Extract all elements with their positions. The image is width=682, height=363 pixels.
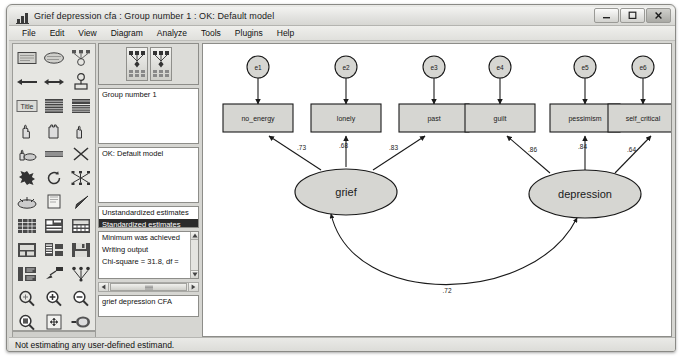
duplicate-objects-icon[interactable] <box>14 142 41 166</box>
draw-path-icon[interactable] <box>14 70 41 94</box>
save-current-diagram-icon[interactable] <box>67 238 94 262</box>
estimates-standardized-item[interactable]: Standardized estimates <box>99 219 198 228</box>
draw-latent-with-indicators-icon[interactable] <box>67 46 94 70</box>
error-label-e4: e4 <box>496 64 504 71</box>
move-parameter-values-icon[interactable] <box>14 190 41 214</box>
menu-diagram[interactable]: Diagram <box>104 26 150 41</box>
observed-variable-self_critical[interactable]: self_critical <box>608 104 671 132</box>
select-data-file-icon[interactable] <box>14 214 41 238</box>
error-term-e5[interactable]: e5 <box>574 56 596 104</box>
groups-panel[interactable]: Group number 1 <box>98 88 199 144</box>
path-depression-to-guilt[interactable] <box>507 136 550 173</box>
status-message: Not estimating any user-defined estimand… <box>9 340 174 350</box>
erase-objects-icon[interactable] <box>67 142 94 166</box>
drag-properties-icon[interactable] <box>41 262 68 286</box>
workspace: Title <box>9 41 675 337</box>
error-label-e5: e5 <box>581 64 589 71</box>
reflect-indicators-icon[interactable] <box>67 166 94 190</box>
move-objects-icon[interactable] <box>41 142 68 166</box>
menu-view[interactable]: View <box>71 26 103 41</box>
scroll-up-icon[interactable] <box>191 232 198 240</box>
zoom-out-icon[interactable] <box>67 286 94 310</box>
draw-unobserved-variable-icon[interactable] <box>41 46 68 70</box>
observed-variable-lonely[interactable]: lonely <box>311 104 381 132</box>
path-grief-to-no_energy[interactable] <box>269 136 321 170</box>
loading-label-depression-self_critical: .64 <box>627 146 636 153</box>
path-grief-to-past[interactable] <box>373 136 425 170</box>
observed-label-no_energy: no_energy <box>241 115 275 123</box>
menu-file[interactable]: File <box>15 26 43 41</box>
messages-vertical-scrollbar[interactable] <box>190 232 198 278</box>
view-text-output-icon[interactable] <box>41 238 68 262</box>
error-term-e2[interactable]: e2 <box>335 56 357 104</box>
error-term-e3[interactable]: e3 <box>423 56 445 104</box>
menu-help[interactable]: Help <box>270 26 301 41</box>
menu-tools[interactable]: Tools <box>194 26 228 41</box>
view-input-path-diagram-button[interactable] <box>126 47 148 81</box>
error-term-e4[interactable]: e4 <box>489 56 511 104</box>
path-depression-to-self_critical[interactable] <box>615 136 651 173</box>
observed-variable-past[interactable]: past <box>399 104 469 132</box>
scroll-left-icon[interactable] <box>99 283 109 291</box>
observed-label-self_critical: self_critical <box>626 115 661 123</box>
analysis-properties-icon[interactable] <box>41 214 68 238</box>
messages-horizontal-scrollbar[interactable] <box>98 282 199 292</box>
list-variables-in-dataset-icon[interactable] <box>67 94 94 118</box>
object-properties-icon[interactable] <box>14 262 41 286</box>
touch-up-variable-icon[interactable] <box>67 190 94 214</box>
estimates-unstandardized-item[interactable]: Unstandardized estimates <box>99 207 198 219</box>
view-output-path-diagram-button[interactable] <box>150 47 172 81</box>
loading-label-grief-no_energy: .73 <box>297 144 306 151</box>
path-diagram-canvas[interactable]: e1 e2 e3 e4 <box>202 43 672 337</box>
menu-analyze[interactable]: Analyze <box>150 26 194 41</box>
deselect-all-objects-icon[interactable] <box>67 118 94 142</box>
preserve-symmetries-icon[interactable] <box>67 262 94 286</box>
rotate-indicators-icon[interactable] <box>41 166 68 190</box>
change-shape-of-objects-icon[interactable] <box>14 166 41 190</box>
select-one-object-icon[interactable] <box>14 118 41 142</box>
error-label-e6: e6 <box>639 64 647 71</box>
scrollbar-thumb[interactable] <box>110 283 187 291</box>
amos-graphics-window: Grief depression cfa : Group number 1 : … <box>6 4 676 352</box>
latent-label-depression: depression <box>558 188 612 200</box>
figure-caption-icon[interactable]: Title <box>14 94 41 118</box>
observed-label-pessimism: pessimism <box>568 115 601 123</box>
observed-variable-no_energy[interactable]: no_energy <box>223 104 293 132</box>
message-line-1: Minimum was achieved <box>99 232 198 244</box>
error-term-e1[interactable]: e1 <box>247 56 269 104</box>
title-bar[interactable]: Grief depression cfa : Group number 1 : … <box>9 7 675 26</box>
scroll-right-icon[interactable] <box>188 283 198 291</box>
diagram-view-toolbar <box>98 43 199 85</box>
observed-variable-guilt[interactable]: guilt <box>465 104 535 132</box>
select-all-objects-icon[interactable] <box>41 118 68 142</box>
loading-label-depression-guilt: .86 <box>528 146 537 153</box>
file-item[interactable]: grief depression CFA <box>99 296 198 308</box>
menu-plugins[interactable]: Plugins <box>228 26 270 41</box>
scroll-down-icon[interactable] <box>191 270 198 278</box>
model-item[interactable]: OK: Default model <box>99 148 198 160</box>
draw-covariance-icon[interactable] <box>41 70 68 94</box>
latent-variable-grief[interactable]: grief <box>295 169 397 215</box>
error-term-e6[interactable]: e6 <box>632 56 654 104</box>
covariance-label-grief-depression: .72 <box>442 287 451 294</box>
menu-edit[interactable]: Edit <box>43 26 72 41</box>
draw-observed-variable-icon[interactable] <box>14 46 41 70</box>
zoom-icon[interactable] <box>14 286 41 310</box>
calculate-estimates-icon[interactable] <box>67 214 94 238</box>
add-unique-variable-icon[interactable] <box>67 70 94 94</box>
models-panel[interactable]: OK: Default model <box>98 147 199 203</box>
zoom-in-icon[interactable] <box>41 286 68 310</box>
latent-variable-depression[interactable]: depression <box>529 170 641 218</box>
latent-label-grief: grief <box>335 186 357 198</box>
covariance-grief-depression[interactable] <box>331 214 577 285</box>
group-item[interactable]: Group number 1 <box>99 89 198 101</box>
close-button[interactable] <box>646 8 671 23</box>
file-panel[interactable]: grief depression CFA <box>98 295 199 317</box>
maximize-button[interactable] <box>620 8 645 23</box>
reposition-path-diagram-icon[interactable] <box>41 190 68 214</box>
list-variables-in-model-icon[interactable] <box>41 94 68 118</box>
clipboard-copy-icon[interactable] <box>14 238 41 262</box>
minimize-button[interactable] <box>594 8 619 23</box>
menu-bar: File Edit View Diagram Analyze Tools Plu… <box>9 26 675 41</box>
estimates-panel[interactable]: Unstandardized estimates Standardized es… <box>98 206 199 228</box>
